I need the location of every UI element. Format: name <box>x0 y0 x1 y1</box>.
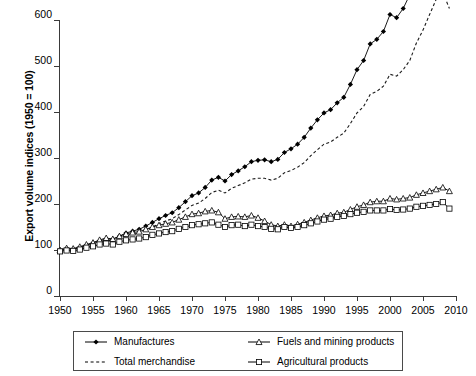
data-point <box>176 226 181 231</box>
data-point <box>255 158 260 163</box>
data-point <box>97 242 102 247</box>
data-point <box>387 12 392 17</box>
data-point <box>368 41 373 46</box>
data-point <box>156 216 161 221</box>
data-point <box>295 224 300 229</box>
legend-item-manufactures[interactable]: Manufactures <box>74 336 237 348</box>
data-point <box>90 244 95 249</box>
data-point <box>420 203 425 208</box>
data-point <box>216 175 221 180</box>
legend-symbol-filled-diamond-line-icon <box>83 336 109 348</box>
series-total-merchandise <box>60 0 449 250</box>
data-point <box>222 224 227 229</box>
data-point <box>321 217 326 222</box>
data-point <box>176 217 182 223</box>
x-tick-label-2005: 2005 <box>411 304 434 316</box>
legend-item-total-merchandise[interactable]: Total merchandise <box>74 356 237 368</box>
data-point <box>407 206 412 211</box>
data-point <box>236 168 241 173</box>
data-point <box>288 146 293 151</box>
data-point <box>77 247 82 252</box>
data-point <box>248 213 254 219</box>
data-point <box>308 221 313 226</box>
data-point <box>137 236 142 241</box>
data-point <box>446 188 452 194</box>
data-point <box>84 245 89 250</box>
data-point <box>170 229 175 234</box>
data-point <box>169 219 175 225</box>
y-tick-label-400: 400 <box>34 106 52 107</box>
x-tick-label-1975: 1975 <box>213 304 236 316</box>
data-point <box>163 229 168 234</box>
data-point <box>354 210 359 215</box>
data-point <box>328 216 333 221</box>
x-tick-label-1955: 1955 <box>81 304 104 316</box>
data-point <box>150 232 155 237</box>
legend-item-fuels-and-mining-products[interactable]: Fuels and mining products <box>237 336 404 348</box>
data-point <box>209 207 215 213</box>
data-point <box>381 208 386 213</box>
y-tick-label-300: 300 <box>34 152 52 153</box>
x-tick-label-1995: 1995 <box>345 304 368 316</box>
data-point <box>374 208 379 213</box>
y-axis-title: Export volume indices (1950 = 100) <box>23 31 35 281</box>
series-layer <box>60 20 456 297</box>
legend-label: Manufactures <box>114 336 175 348</box>
x-tick-label-1980: 1980 <box>246 304 269 316</box>
data-point <box>189 223 194 228</box>
y-tick-label-100: 100 <box>34 244 52 245</box>
legend-item-agricultural-products[interactable]: Agricultural products <box>237 356 404 368</box>
data-point <box>156 231 161 236</box>
data-point <box>163 213 168 218</box>
data-point <box>262 218 268 224</box>
data-point <box>440 200 445 205</box>
legend-label: Total merchandise <box>114 356 195 368</box>
data-point <box>242 223 247 228</box>
data-point <box>209 220 214 225</box>
data-point <box>103 235 109 241</box>
data-point <box>440 184 446 190</box>
data-point <box>71 248 76 253</box>
data-point <box>143 235 148 240</box>
legend-symbol-dashed-line-icon <box>83 356 109 368</box>
data-point <box>203 221 208 226</box>
data-point <box>255 215 261 221</box>
data-point <box>387 195 393 201</box>
series-line <box>60 0 449 250</box>
x-tick-label-1965: 1965 <box>147 304 170 316</box>
data-point <box>182 214 188 220</box>
export-volume-indices-chart: Export volume indices (1950 = 100) 01002… <box>0 0 476 376</box>
legend-label: Agricultural products <box>277 356 368 368</box>
data-point <box>361 202 367 208</box>
data-point <box>57 249 62 254</box>
data-point <box>236 222 241 227</box>
data-point <box>414 204 419 209</box>
y-tick-label-200: 200 <box>34 198 52 199</box>
x-tick-label-1970: 1970 <box>180 304 203 316</box>
x-tick-label-1985: 1985 <box>279 304 302 316</box>
series-manufactures <box>57 0 452 253</box>
legend-label: Fuels and mining products <box>277 336 394 348</box>
data-point <box>216 222 221 227</box>
chart-legend: ManufacturesFuels and mining productsTot… <box>73 331 403 371</box>
y-tick-label-0: 0 <box>46 290 52 291</box>
data-point <box>269 159 274 164</box>
legend-symbol-open-square-line-icon <box>246 356 272 368</box>
x-tick-label-1960: 1960 <box>114 304 137 316</box>
data-point <box>123 238 128 243</box>
data-point <box>335 214 340 219</box>
data-point <box>434 201 439 206</box>
data-point <box>348 212 353 217</box>
x-tick-2010 <box>456 296 457 301</box>
data-point <box>196 222 201 227</box>
data-point <box>361 209 366 214</box>
data-point <box>394 207 399 212</box>
data-point <box>348 82 353 87</box>
data-point <box>110 242 115 247</box>
data-point <box>262 224 267 229</box>
data-point <box>229 223 234 228</box>
data-point <box>315 219 320 224</box>
data-point <box>341 213 346 218</box>
data-point <box>368 208 373 213</box>
data-point <box>407 195 413 201</box>
